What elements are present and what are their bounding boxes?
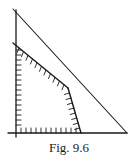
y-axis-hatching [16, 50, 21, 125]
x-axis-hatching [21, 128, 76, 133]
constraint-2-hatching [65, 93, 80, 130]
constraint-line-2 [68, 88, 81, 133]
feasible-region-diagram [0, 0, 138, 163]
constraint-1-hatching [17, 48, 64, 90]
figure-caption: Fig. 9.6 [0, 140, 138, 156]
